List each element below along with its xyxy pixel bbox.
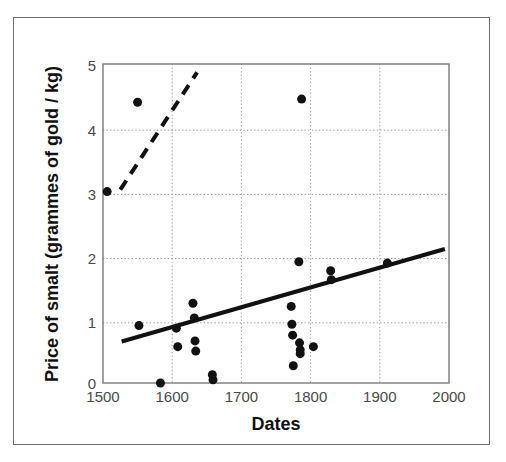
data-point [326,266,335,275]
data-point [327,275,336,284]
data-point [296,349,305,358]
data-point [103,187,112,196]
x-tick-label: 1900 [363,388,396,405]
x-axis-title: Dates [251,414,300,434]
data-point [287,302,296,311]
y-tick-label: 1 [88,314,96,331]
scatter-chart: 1500 1600 1700 1800 1900 2000 0 1 2 3 4 … [0,0,506,462]
data-point [287,320,296,329]
data-point [309,342,318,351]
x-tick-label: 1800 [294,388,327,405]
x-tick-label: 1700 [225,388,258,405]
data-point [191,347,200,356]
y-tick-label: 0 [88,375,96,392]
y-tick-label: 3 [88,186,96,203]
x-tick-labels: 1500 1600 1700 1800 1900 2000 [86,388,465,405]
data-point [188,299,197,308]
data-point [294,257,303,266]
data-point [383,259,392,268]
x-tick-label: 2000 [432,388,465,405]
data-point [172,324,181,333]
data-point [133,98,142,107]
plot-area-background [103,64,449,383]
data-point [209,375,218,384]
data-point [297,95,306,104]
y-tick-labels: 0 1 2 3 4 5 [88,57,96,392]
data-point [134,321,143,330]
data-point [190,313,199,322]
y-tick-label: 4 [88,122,96,139]
y-tick-label: 5 [88,57,96,74]
y-axis-title: Price of smalt (grammes of gold / kg) [42,66,62,382]
data-point [173,342,182,351]
data-point [156,379,165,388]
data-point [191,336,200,345]
data-point [289,361,298,370]
x-tick-label: 1600 [156,388,189,405]
data-point [288,331,297,340]
figure-root: 1500 1600 1700 1800 1900 2000 0 1 2 3 4 … [0,0,506,462]
y-tick-label: 2 [88,250,96,267]
